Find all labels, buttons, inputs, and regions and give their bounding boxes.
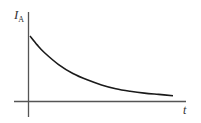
y-axis-label: IA bbox=[14, 8, 24, 21]
x-axis-label: t bbox=[183, 104, 186, 116]
decay-chart: IA t bbox=[0, 0, 201, 123]
decay-curve bbox=[30, 36, 173, 96]
chart-canvas bbox=[0, 0, 201, 123]
y-axis-label-subscript: A bbox=[18, 15, 24, 24]
